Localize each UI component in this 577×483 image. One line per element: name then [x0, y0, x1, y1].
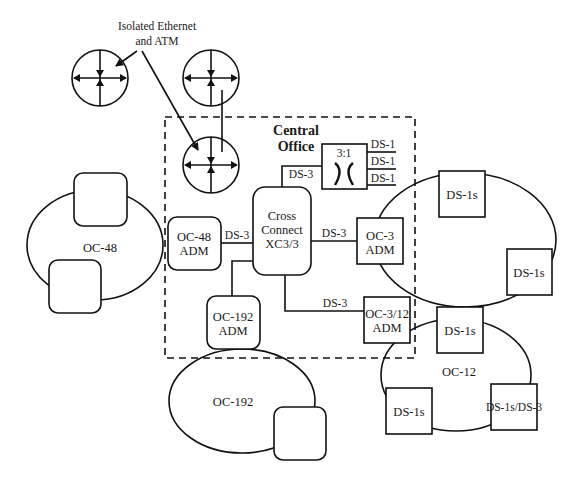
- oc192-ring-node: [274, 407, 326, 460]
- hub-arrowhead: [96, 79, 104, 86]
- hub-arrowhead: [231, 74, 238, 82]
- xc-to-oc312-label: DS-3: [323, 297, 348, 309]
- hub-arrowhead: [207, 79, 215, 86]
- oc12-ring-label: OC-12: [442, 365, 476, 379]
- ethernet-atm-hub-icon: [183, 137, 239, 193]
- mux-output-label-3: DS-1: [371, 172, 396, 184]
- oc192-adm-line1: OC-192: [213, 310, 253, 324]
- oc192-adm-line2: ADM: [218, 324, 247, 338]
- hub-arrowhead: [231, 161, 238, 169]
- mux-output-label-2: DS-1: [371, 155, 396, 167]
- callout-line1: Isolated Ethernet: [118, 20, 197, 32]
- oc312-adm-line1: OC-3/12: [365, 307, 409, 321]
- oc3-adm-line2: ADM: [365, 243, 394, 257]
- oc12-ring-node-2: DS-1s: [386, 388, 432, 434]
- oc48-ring-node-2: [49, 260, 101, 313]
- xc-to-oc3-label: DS-3: [322, 227, 347, 239]
- hub-arrowhead: [207, 70, 215, 77]
- oc192-adm: OC-192 ADM: [207, 296, 260, 349]
- hub-arrowhead: [207, 157, 215, 164]
- oc12-ring-node-3-label: DS-1s/DS-3: [486, 401, 542, 413]
- oc312-adm: OC-3/12 ADM: [364, 297, 410, 343]
- mux-3to1: 3:1: [322, 144, 367, 189]
- oc48-ring-label: OC-48: [83, 241, 117, 255]
- ethernet-atm-hub-icon: [183, 50, 239, 106]
- central-office-title-line1: Central: [273, 123, 319, 138]
- oc48-adm-line1: OC-48: [177, 230, 211, 244]
- callout-label: Isolated Ethernet and ATM: [118, 20, 197, 47]
- oc3-ring-node-2: DS-1s: [507, 249, 552, 295]
- hub-arrowhead: [184, 74, 191, 82]
- oc48-to-xc-label: DS-3: [225, 229, 250, 241]
- oc192-ring-label: OC-192: [213, 395, 253, 409]
- hub-arrowhead: [207, 166, 215, 173]
- oc3-ring-node-2-label: DS-1s: [513, 266, 544, 280]
- cross-connect: Cross Connect XC3/3: [253, 187, 311, 275]
- xc-to-oc192-line: [232, 261, 253, 296]
- mux-ratio-label: 3:1: [337, 147, 352, 159]
- cross-connect-line1: Cross: [268, 209, 297, 223]
- oc3-ring-node-1: DS-1s: [439, 171, 485, 217]
- oc48-adm: OC-48 ADM: [168, 217, 221, 270]
- oc3-adm-line1: OC-3: [366, 229, 394, 243]
- oc3-ring-node-1-label: DS-1s: [446, 188, 477, 202]
- oc48-ring-node-1: [74, 173, 127, 226]
- oc312-adm-line2: ADM: [372, 321, 401, 335]
- oc3-adm: OC-3 ADM: [357, 218, 403, 264]
- oc48-adm-line2: ADM: [179, 244, 208, 258]
- mux-output-label-1: DS-1: [371, 138, 396, 150]
- hub-arrowhead: [120, 74, 127, 82]
- xc-to-mux-label: DS-3: [289, 168, 314, 180]
- hub-arrowhead: [96, 70, 104, 77]
- callout-arrow-right: [142, 51, 198, 150]
- hub-arrowhead: [184, 161, 191, 169]
- cross-connect-line2: Connect: [261, 223, 303, 237]
- callout-line2: and ATM: [135, 35, 178, 47]
- hub-arrowhead: [73, 74, 80, 82]
- network-diagram: Isolated Ethernet and ATM OC-48 OC-192 O…: [0, 0, 577, 483]
- oc12-ring-node-1: DS-1s: [437, 307, 483, 353]
- oc12-ring-node-3: DS-1s/DS-3: [486, 384, 542, 430]
- oc12-ring-node-1-label: DS-1s: [444, 324, 475, 338]
- central-office-title-line2: Office: [278, 139, 315, 154]
- cross-connect-line3: XC3/3: [265, 237, 298, 251]
- oc12-ring-node-2-label: DS-1s: [393, 405, 424, 419]
- ethernet-atm-hub-icon: [72, 50, 128, 106]
